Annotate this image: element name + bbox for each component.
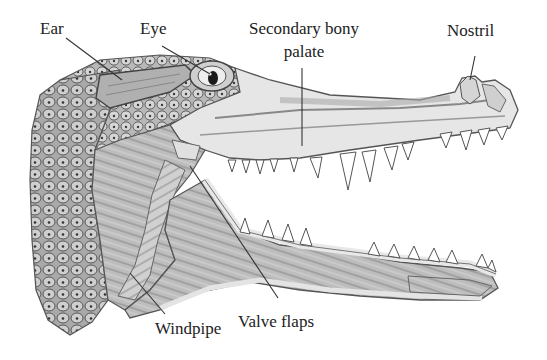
- label-nostril: Nostril: [447, 22, 494, 39]
- label-eye: Eye: [140, 20, 166, 37]
- label-secondary-bony-palate-line2: palate: [230, 43, 378, 60]
- label-secondary-bony-palate-line1: Secondary bony: [230, 20, 378, 37]
- label-valve-flaps: Valve flaps: [238, 313, 314, 330]
- label-secondary-bony-palate: Secondary bony palate: [230, 20, 378, 60]
- label-windpipe: Windpipe: [155, 320, 221, 337]
- diagram-canvas: Ear Eye Secondary bony palate Nostril Wi…: [0, 0, 547, 360]
- label-ear: Ear: [40, 20, 64, 37]
